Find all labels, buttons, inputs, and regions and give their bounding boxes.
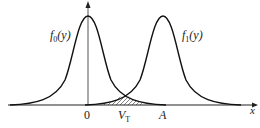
y-axis-arrow-icon (86, 1, 91, 8)
mean-label: A (159, 108, 166, 123)
diagram: f0(y) f1(y) 0 VT A x (0, 0, 260, 128)
threshold-label: VT (118, 108, 130, 124)
curve-f0-label: f0(y) (50, 28, 71, 44)
curve-f1-label: f1(y) (182, 28, 203, 44)
x-axis-label: x (250, 104, 255, 116)
hatched-region (95, 90, 155, 110)
origin-label: 0 (84, 108, 90, 123)
curve-f1 (85, 16, 241, 105)
